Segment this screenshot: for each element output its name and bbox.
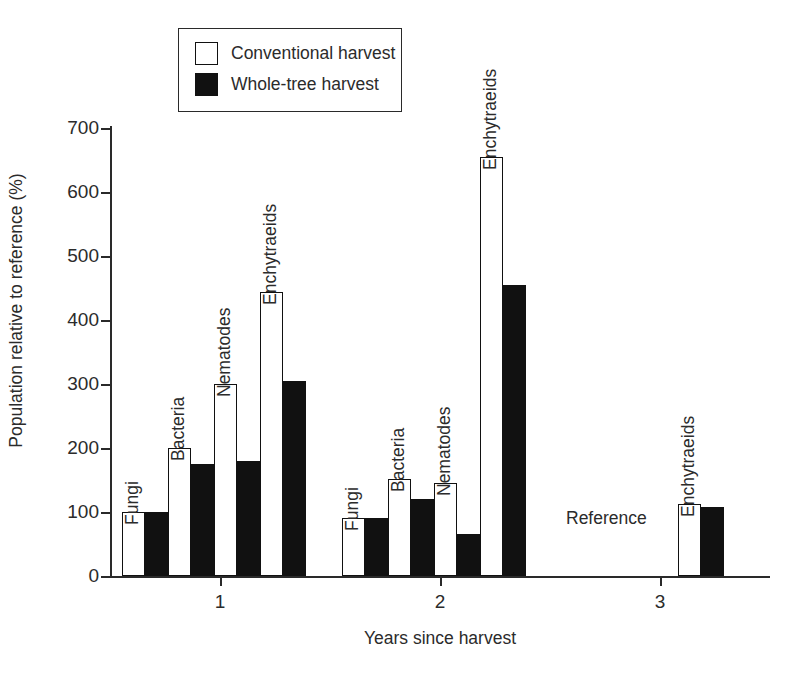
bar-conventional-harvest: [260, 292, 283, 576]
bar-whole-tree-harvest: [503, 285, 526, 576]
y-axis-tick: [101, 448, 110, 450]
bar-whole-tree-harvest: [145, 512, 168, 576]
y-axis-tick: [101, 128, 110, 130]
bar-group-label: Enchytraeids: [678, 416, 699, 517]
bar-conventional-harvest: [480, 157, 503, 576]
bar-group-label: Bacteria: [168, 397, 189, 461]
bar-conventional-harvest: [388, 479, 411, 576]
bar-whole-tree-harvest: [237, 461, 260, 576]
legend-item-whole-tree-harvest: Whole-tree harvest: [195, 69, 401, 100]
y-tick-label: 500: [67, 245, 99, 267]
y-axis-tick: [101, 576, 110, 578]
y-axis-tick: [101, 512, 110, 514]
y-axis-tick: [101, 384, 110, 386]
x-axis-title: Years since harvest: [110, 628, 770, 649]
bar-whole-tree-harvest: [283, 381, 306, 576]
legend-label-whole-tree-harvest: Whole-tree harvest: [231, 74, 379, 95]
bar-conventional-harvest: [168, 448, 191, 576]
bar-group-label: Fungi: [122, 481, 143, 525]
y-axis-title: Population relative to reference (%): [6, 41, 27, 581]
bar-whole-tree-harvest: [365, 518, 388, 576]
legend-label-conventional-harvest: Conventional harvest: [231, 43, 395, 64]
bar-whole-tree-harvest: [191, 464, 214, 576]
bar-whole-tree-harvest: [411, 499, 434, 576]
reference-annotation: Reference: [566, 508, 647, 529]
y-tick-label: 600: [67, 181, 99, 203]
bar-group-label: Enchytraeids: [260, 204, 281, 305]
x-axis-tick: [220, 577, 222, 586]
bar-group-label: Bacteria: [388, 428, 409, 492]
bar-chart-figure: Conventional harvest Whole-tree harvest …: [0, 0, 786, 690]
legend-item-conventional-harvest: Conventional harvest: [195, 38, 401, 69]
bar-whole-tree-harvest: [457, 534, 480, 576]
chart-legend: Conventional harvest Whole-tree harvest: [178, 28, 402, 112]
bar-group-label: Enchytraeids: [480, 69, 501, 170]
bar-conventional-harvest: [434, 483, 457, 576]
y-tick-label: 200: [67, 437, 99, 459]
y-axis-tick: [101, 192, 110, 194]
bar-group-label: Nematodes: [214, 308, 235, 398]
y-tick-label: 700: [67, 117, 99, 139]
y-tick-label: 400: [67, 309, 99, 331]
plot-area: FungiBacteriaNematodesEnchytraeidsFungiB…: [110, 128, 770, 576]
x-tick-label: 3: [655, 591, 666, 613]
y-tick-label: 300: [67, 373, 99, 395]
legend-swatch-conventional-harvest: [195, 42, 218, 65]
y-axis-tick: [101, 256, 110, 258]
bar-whole-tree-harvest: [701, 507, 724, 576]
x-axis-tick: [660, 577, 662, 586]
y-tick-label: 0: [88, 565, 99, 587]
y-tick-label: 100: [67, 501, 99, 523]
x-axis-tick: [440, 577, 442, 586]
bar-conventional-harvest: [214, 384, 237, 576]
legend-swatch-whole-tree-harvest: [195, 73, 218, 96]
bar-group-label: Fungi: [342, 488, 363, 532]
x-tick-label: 2: [435, 591, 446, 613]
y-axis-tick: [101, 320, 110, 322]
bar-group-label: Nematodes: [434, 407, 455, 497]
x-tick-label: 1: [215, 591, 226, 613]
